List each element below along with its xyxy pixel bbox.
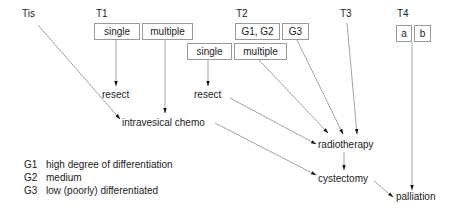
legend-code: G3 — [24, 184, 46, 197]
t2-single-box: single — [187, 43, 232, 60]
t1-multiple-box: multiple — [142, 23, 193, 40]
t2-g1g2-box: G1, G2 — [235, 23, 280, 40]
edge-t3-to-radiotherapy — [347, 23, 357, 134]
legend-row: G2medium — [24, 171, 173, 184]
node-cystectomy: cystectomy — [318, 173, 368, 185]
edge-chemo-to-cystectomy — [215, 123, 316, 175]
node-resect-t2: resect — [194, 89, 221, 101]
t2-multiple-box: multiple — [234, 43, 287, 60]
stage-tis-label: Tis — [22, 8, 35, 20]
node-palliation: palliation — [396, 191, 435, 203]
edge-t2multiple-to-radiotherapy — [259, 60, 328, 133]
t2-g3-box: G3 — [282, 23, 309, 40]
legend-code: G1 — [24, 158, 46, 171]
t4-a-box: a — [396, 25, 412, 42]
node-radiotherapy: radiotherapy — [318, 139, 374, 151]
stage-t4-label: T4 — [397, 8, 409, 20]
grade-legend: G1high degree of differentiation G2mediu… — [24, 158, 173, 197]
stage-t2-label: T2 — [236, 8, 248, 20]
legend-text: low (poorly) differentiated — [46, 185, 158, 196]
node-resect-t1: resect — [102, 89, 129, 101]
edge-cystectomy-to-palliation — [374, 181, 393, 197]
stage-t3-label: T3 — [340, 8, 352, 20]
edge-g3-to-radiotherapy — [297, 40, 343, 134]
legend-row: G3low (poorly) differentiated — [24, 184, 173, 197]
legend-text: medium — [46, 172, 82, 183]
legend-text: high degree of differentiation — [46, 159, 173, 170]
t1-single-box: single — [94, 23, 140, 40]
t4-b-box: b — [414, 25, 431, 42]
node-intravesical-chemo: intravesical chemo — [122, 117, 205, 129]
stage-t1-label: T1 — [96, 8, 108, 20]
legend-row: G1high degree of differentiation — [24, 158, 173, 171]
legend-code: G2 — [24, 171, 46, 184]
